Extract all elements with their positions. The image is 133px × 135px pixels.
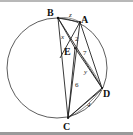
label-6: 6 [75,81,79,89]
label-D: D [103,88,110,99]
label-B: B [47,7,54,18]
label-2: 2 [75,35,79,43]
point-C-dot [67,117,69,119]
point-B-dot [57,17,59,19]
label-E: E [64,46,71,57]
segment-ED [75,48,102,88]
cyclic-quadrilateral-diagram: B A E D C z x 2 7 y 6 4 [0,0,133,135]
point-E-dot [74,47,76,49]
segment-CD-2 [68,90,101,118]
label-4: 4 [87,101,91,109]
label-A: A [81,14,89,25]
label-C: C [63,121,70,132]
segment-EC [68,48,75,118]
label-y: y [83,68,88,76]
label-z: z [68,11,72,19]
label-7: 7 [83,49,87,57]
bottom-border-bar [0,132,133,135]
label-x: x [60,33,65,41]
circumcircle [7,18,107,118]
